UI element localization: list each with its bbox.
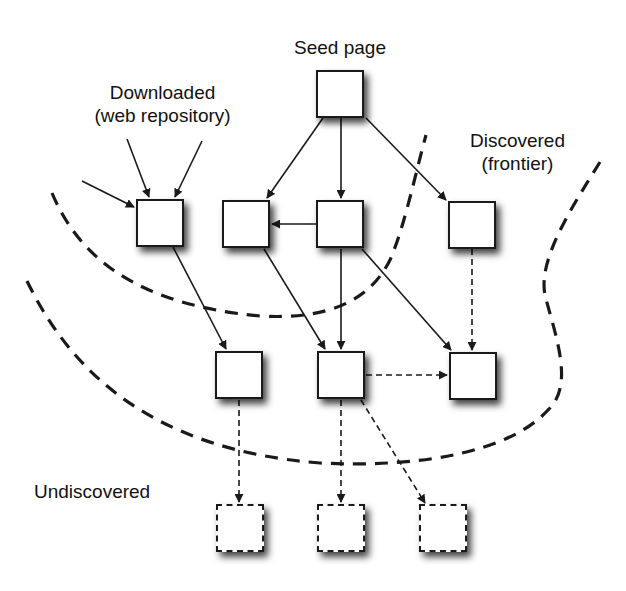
label-seed-page: Seed page <box>290 37 390 59</box>
node-seed-page <box>316 70 364 118</box>
edge-d2-to-f3 <box>264 249 325 349</box>
edge-d1-to-f2 <box>173 247 226 349</box>
label-frontier: (frontier) <box>460 153 575 175</box>
node-undiscovered-2 <box>317 504 365 552</box>
edge-f3-to-u3 <box>361 400 425 503</box>
edge-seed-to-d2 <box>267 118 323 198</box>
node-undiscovered-1 <box>216 504 264 552</box>
node-downloaded-3 <box>316 200 364 248</box>
label-discovered: Discovered <box>460 130 575 152</box>
node-frontier-4 <box>449 352 497 400</box>
label-downloaded: Downloaded <box>70 82 255 104</box>
node-frontier-2 <box>215 351 263 399</box>
edge-d3-to-f4 <box>362 249 451 350</box>
label-web-repository: (web repository) <box>70 105 255 127</box>
label-undiscovered: Undiscovered <box>34 481 150 503</box>
edge-external-to-d1-a <box>82 181 134 207</box>
node-downloaded-1 <box>136 199 184 247</box>
node-undiscovered-3 <box>419 504 467 552</box>
edge-external-to-d1-c <box>175 141 202 197</box>
node-downloaded-2 <box>222 200 270 248</box>
node-frontier-3 <box>317 351 365 399</box>
edge-seed-to-f1 <box>366 118 446 200</box>
edge-external-to-d1-b <box>127 139 149 197</box>
node-frontier-1 <box>448 201 496 249</box>
